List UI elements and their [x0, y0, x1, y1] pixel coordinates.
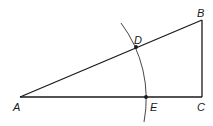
- triangle-diagram: A B C D E: [0, 0, 213, 126]
- point-e-dot: [144, 95, 148, 99]
- diagram-canvas: A B C D E: [0, 0, 213, 126]
- label-b: B: [197, 7, 204, 19]
- label-d: D: [134, 34, 142, 46]
- segment-ab: [20, 20, 202, 97]
- label-e: E: [150, 101, 158, 113]
- label-a: A: [12, 101, 20, 113]
- label-c: C: [197, 101, 205, 113]
